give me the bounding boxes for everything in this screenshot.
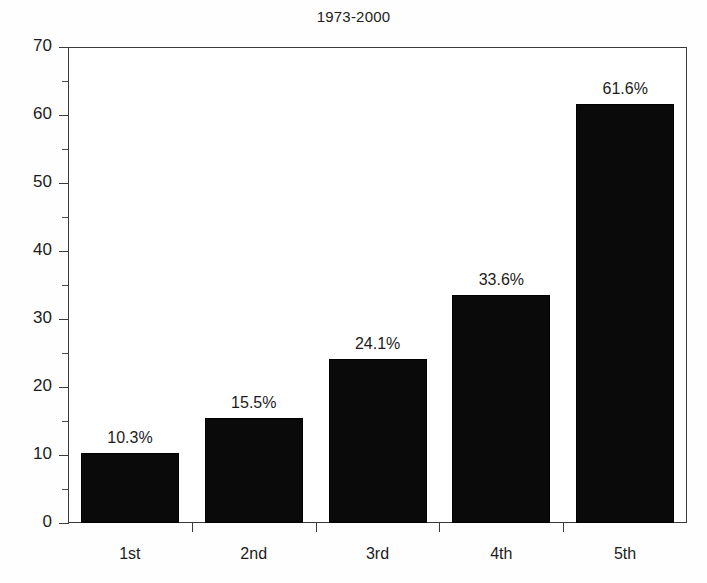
x-axis-label: 2nd [192,545,316,563]
x-axis-label: 4th [439,545,563,563]
bar-slot: 61.6% [563,47,687,523]
x-axis-tick [563,523,564,532]
x-axis-tick [192,523,193,532]
bar[interactable] [452,295,550,523]
plot-area: 10.3%15.5%24.1%33.6%61.6% [68,47,687,523]
bar-slot: 24.1% [316,47,440,523]
bar[interactable] [81,453,179,523]
y-axis-label: 40 [4,240,52,260]
bar[interactable] [576,104,674,523]
y-axis-label: 70 [4,36,52,56]
bar[interactable] [329,359,427,523]
y-axis-label: 30 [4,308,52,328]
bar-value-label: 33.6% [479,271,524,289]
y-axis-label: 10 [4,444,52,464]
bar-value-label: 10.3% [107,429,152,447]
y-axis-tick [59,523,69,524]
bar-value-label: 15.5% [231,394,276,412]
x-axis-label: 5th [563,545,687,563]
x-axis-label: 3rd [316,545,440,563]
chart-title: 1973-2000 [0,8,707,25]
bar-slot: 33.6% [439,47,563,523]
bar-slot: 10.3% [68,47,192,523]
y-axis-label: 20 [4,376,52,396]
bar-chart-figure: 1973-2000 010203040506070 1st2nd3rd4th5t… [0,0,707,583]
bar-value-label: 61.6% [603,80,648,98]
x-axis-tick [316,523,317,532]
x-axis-tick [439,523,440,532]
y-axis-label: 60 [4,104,52,124]
x-axis-label: 1st [68,545,192,563]
bar[interactable] [205,418,303,523]
y-axis-label: 50 [4,172,52,192]
bar-slot: 15.5% [192,47,316,523]
bar-value-label: 24.1% [355,335,400,353]
y-axis-label: 0 [4,512,52,532]
